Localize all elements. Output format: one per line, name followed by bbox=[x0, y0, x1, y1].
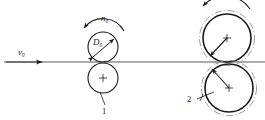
label-diameter-D0: D0 bbox=[92, 37, 103, 48]
radius-arrow-upper-right bbox=[210, 38, 227, 56]
roller-pair-2 bbox=[197, 0, 257, 115]
lower-left-roller-center-mark bbox=[99, 74, 107, 82]
rotation-arc-arrow-right bbox=[203, 0, 250, 9]
label-velocity-v0: v0 bbox=[18, 47, 25, 58]
rolling-mill-diagram: v0 n0 D0 1 2 bbox=[0, 0, 265, 120]
label-item-2: 2 bbox=[187, 94, 191, 104]
diagram-canvas: v0 n0 D0 1 2 bbox=[0, 0, 265, 120]
label-item-1: 1 bbox=[102, 106, 106, 116]
label-speed-n0: n0 bbox=[101, 13, 109, 24]
radius-arrow-lower-right bbox=[212, 69, 229, 88]
leader-line-item-1 bbox=[100, 92, 105, 105]
